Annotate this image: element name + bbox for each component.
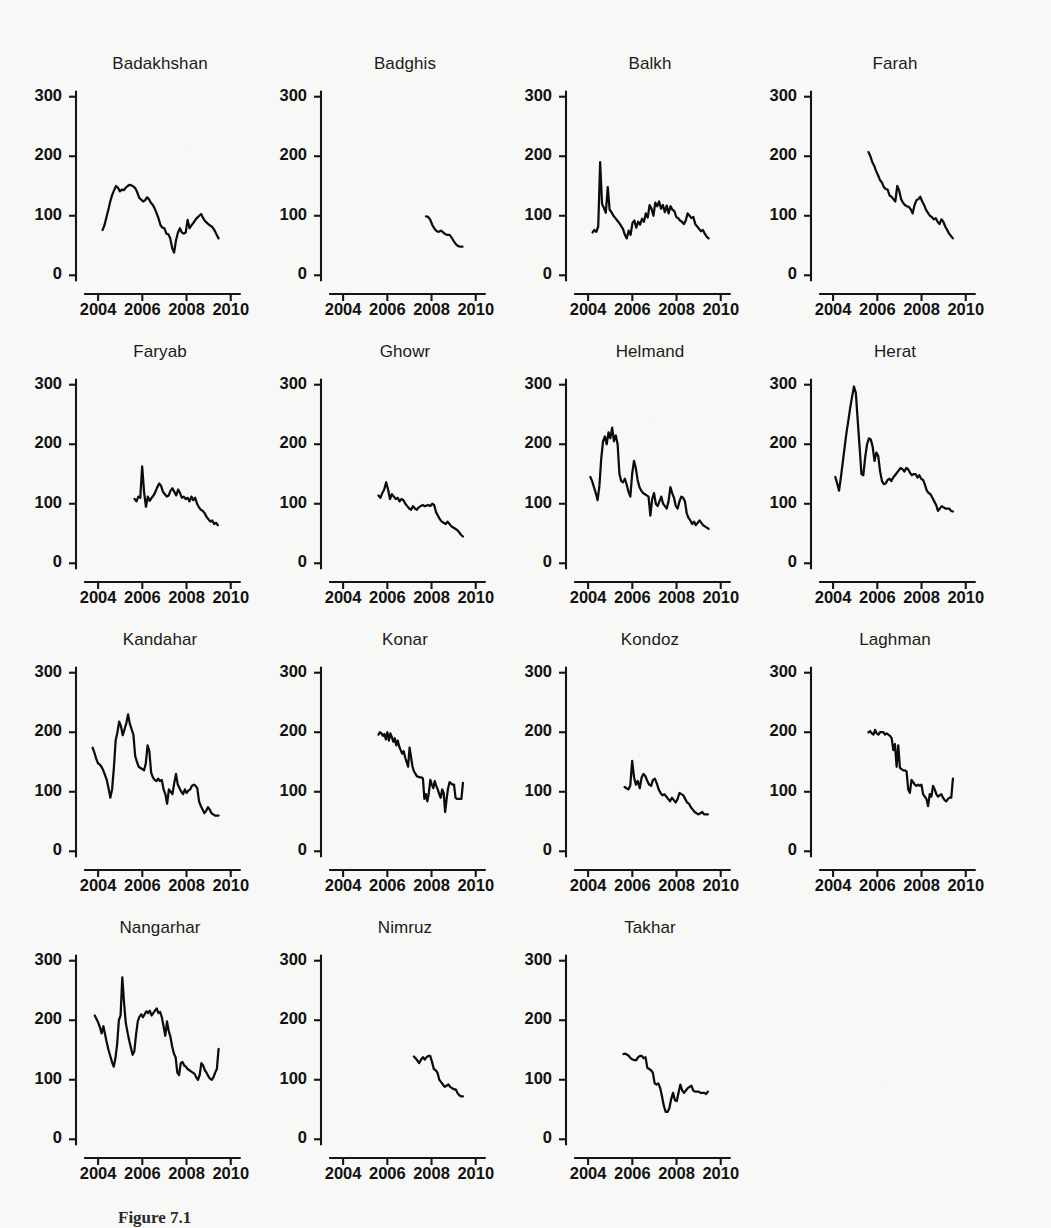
x-tick-label: 2010 (936, 876, 996, 895)
plot-area (566, 662, 764, 876)
panel-title: Balkh (520, 54, 780, 74)
y-tick-label: 300 (18, 662, 62, 681)
y-tick-label: 200 (18, 1009, 62, 1028)
y-tick-label: 200 (508, 433, 552, 452)
x-tick-label: 2010 (201, 300, 261, 319)
y-tick-label: 300 (263, 950, 307, 969)
panel-title: Kandahar (30, 630, 290, 650)
y-tick-label: 300 (753, 374, 797, 393)
y-tick-label: 300 (508, 86, 552, 105)
panel-badghis: Badghis01002003002004200620082010 (263, 46, 508, 334)
y-tick-label: 100 (18, 1069, 62, 1088)
x-tick-label: 2010 (446, 588, 506, 607)
y-tick-label: 200 (18, 721, 62, 740)
y-tick-label: 300 (18, 950, 62, 969)
x-tick-label: 2010 (446, 300, 506, 319)
y-tick-label: 0 (753, 264, 797, 283)
plot-area (321, 662, 519, 876)
plot-area (76, 950, 274, 1164)
y-tick-label: 0 (18, 840, 62, 859)
series-line (590, 428, 708, 529)
y-tick-label: 0 (508, 552, 552, 571)
y-tick-label: 100 (753, 205, 797, 224)
x-tick-label: 2010 (936, 300, 996, 319)
y-tick-label: 200 (263, 721, 307, 740)
y-tick-label: 100 (508, 493, 552, 512)
x-tick-label: 2010 (201, 876, 261, 895)
panel-title: Farah (765, 54, 1025, 74)
panel-konar: Konar01002003002004200620082010 (263, 622, 508, 910)
series-line (835, 387, 953, 512)
y-tick-label: 100 (263, 1069, 307, 1088)
series-line (103, 185, 219, 253)
y-tick-label: 100 (263, 493, 307, 512)
panel-takhar: Takhar01002003002004200620082010 (508, 910, 753, 1198)
y-tick-label: 300 (508, 950, 552, 969)
y-tick-label: 200 (508, 1009, 552, 1028)
plot-area (321, 950, 519, 1164)
plot-area (76, 86, 274, 300)
panel-herat: Herat01002003002004200620082010 (753, 334, 998, 622)
plot-area (566, 950, 764, 1164)
y-tick-label: 0 (263, 264, 307, 283)
y-tick-label: 300 (753, 662, 797, 681)
series-line (414, 1056, 463, 1096)
plot-area (811, 662, 1009, 876)
panel-title: Badakhshan (30, 54, 290, 74)
panel-title: Nangarhar (30, 918, 290, 938)
y-tick-label: 300 (263, 86, 307, 105)
series-line (593, 162, 709, 238)
y-tick-label: 0 (508, 1128, 552, 1147)
y-tick-label: 300 (263, 662, 307, 681)
x-tick-label: 2010 (201, 1164, 261, 1183)
panel-title: Ghowr (275, 342, 535, 362)
plot-area (811, 374, 1009, 588)
y-tick-label: 200 (753, 721, 797, 740)
x-tick-label: 2010 (201, 588, 261, 607)
x-tick-label: 2010 (691, 588, 751, 607)
y-tick-label: 0 (18, 552, 62, 571)
x-tick-label: 2010 (691, 876, 751, 895)
panel-nangarhar: Nangarhar01002003002004200620082010 (18, 910, 263, 1198)
y-tick-label: 0 (18, 1128, 62, 1147)
series-line (868, 730, 952, 806)
y-tick-label: 200 (508, 145, 552, 164)
y-tick-label: 100 (508, 205, 552, 224)
y-tick-label: 0 (263, 1128, 307, 1147)
y-tick-label: 100 (263, 781, 307, 800)
series-line (868, 152, 952, 238)
y-tick-label: 300 (18, 86, 62, 105)
y-tick-label: 0 (508, 264, 552, 283)
panel-badakhshan: Badakhshan01002003002004200620082010 (18, 46, 263, 334)
y-tick-label: 200 (263, 1009, 307, 1028)
y-tick-label: 300 (508, 374, 552, 393)
panel-title: Badghis (275, 54, 535, 74)
panel-kandahar: Kandahar01002003002004200620082010 (18, 622, 263, 910)
series-line (378, 732, 462, 812)
panel-balkh: Balkh01002003002004200620082010 (508, 46, 753, 334)
panel-faryab: Faryab01002003002004200620082010 (18, 334, 263, 622)
y-tick-label: 0 (753, 552, 797, 571)
series-line (93, 714, 219, 815)
y-tick-label: 200 (18, 433, 62, 452)
y-tick-label: 0 (263, 840, 307, 859)
y-tick-label: 0 (508, 840, 552, 859)
panel-nimruz: Nimruz01002003002004200620082010 (263, 910, 508, 1198)
series-line (95, 977, 219, 1079)
series-line (135, 466, 218, 525)
series-line (625, 761, 708, 815)
plot-area (76, 374, 274, 588)
y-tick-label: 300 (18, 374, 62, 393)
panel-title: Faryab (30, 342, 290, 362)
y-tick-label: 100 (18, 205, 62, 224)
y-tick-label: 100 (18, 781, 62, 800)
y-tick-label: 0 (753, 840, 797, 859)
y-tick-label: 100 (508, 1069, 552, 1088)
panel-title: Helmand (520, 342, 780, 362)
panel-title: Konar (275, 630, 535, 650)
panel-title: Takhar (520, 918, 780, 938)
y-tick-label: 300 (508, 662, 552, 681)
x-tick-label: 2010 (446, 1164, 506, 1183)
y-tick-label: 0 (263, 552, 307, 571)
y-tick-label: 0 (18, 264, 62, 283)
